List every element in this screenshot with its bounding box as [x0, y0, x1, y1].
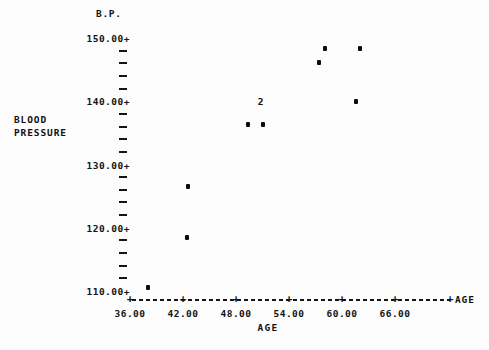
y-axis: 150.00+140.00+130.00+120.00+110.00+ — [0, 0, 130, 310]
data-point — [354, 99, 358, 104]
data-point — [186, 184, 190, 189]
y-axis-minor-tick — [119, 214, 127, 216]
x-axis-tick-mark: + — [180, 295, 187, 303]
y-axis-minor-tick — [119, 62, 127, 64]
y-axis-tick-label: 130.00+ — [0, 160, 130, 171]
x-axis-tick-label: 60.00 — [319, 308, 365, 319]
y-axis-minor-tick — [119, 176, 127, 178]
data-point — [317, 60, 321, 65]
x-axis-tick-mark: + — [339, 295, 346, 303]
y-axis-minor-tick — [119, 151, 127, 153]
x-axis-tick-label: 42.00 — [160, 308, 206, 319]
y-axis-minor-tick — [119, 50, 127, 52]
x-axis-end-tick-mark: + — [447, 295, 454, 303]
y-axis-minor-tick — [119, 113, 127, 115]
y-axis-tick-label: 120.00+ — [0, 223, 130, 234]
x-axis-title: AGE — [238, 322, 298, 333]
y-axis-tick-label: 140.00+ — [0, 96, 130, 107]
y-axis-minor-tick — [119, 88, 127, 90]
x-axis-tick-label: 36.00 — [107, 308, 153, 319]
y-axis-minor-tick — [119, 252, 127, 254]
y-axis-tick-label: 150.00+ — [0, 33, 130, 44]
data-point — [323, 46, 327, 51]
y-axis-minor-tick — [119, 126, 127, 128]
x-axis-tick-label: 54.00 — [266, 308, 312, 319]
scatter-plot-figure: B.P. BLOODPRESSURE 150.00+140.00+130.00+… — [0, 0, 489, 350]
x-axis-tick-mark: + — [392, 295, 399, 303]
y-axis-minor-tick — [119, 277, 127, 279]
data-point — [146, 285, 150, 290]
y-axis-minor-tick — [119, 239, 127, 241]
x-axis: +++++++ — [128, 298, 450, 301]
data-point — [358, 46, 362, 51]
x-axis-tick-label: 48.00 — [213, 308, 259, 319]
y-axis-minor-tick — [119, 201, 127, 203]
data-point — [246, 122, 250, 127]
x-axis-end-title: AGE — [455, 294, 475, 305]
y-axis-minor-tick — [119, 265, 127, 267]
x-axis-tick-label: 66.00 — [372, 308, 418, 319]
data-point — [185, 235, 189, 240]
x-axis-tick-mark: + — [233, 295, 240, 303]
y-axis-tick-label: 110.00+ — [0, 286, 130, 297]
y-axis-minor-tick — [119, 75, 127, 77]
y-axis-minor-tick — [119, 138, 127, 140]
y-axis-minor-tick — [119, 189, 127, 191]
data-point-overlap-count: 2 — [258, 96, 264, 107]
data-point — [261, 122, 265, 127]
x-axis-tick-mark: + — [127, 295, 134, 303]
x-axis-tick-mark: + — [286, 295, 293, 303]
